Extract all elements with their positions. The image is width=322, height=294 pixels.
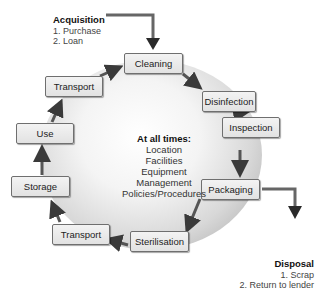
at-all-times-panel: At all times: Location Facilities Equipm… bbox=[100, 133, 228, 199]
disposal-item: 2. Return to lender bbox=[239, 280, 314, 291]
center-item: Facilities bbox=[100, 155, 228, 166]
acquisition-item: 2. Loan bbox=[53, 36, 105, 47]
step-inspection: Inspection bbox=[222, 117, 280, 138]
acquisition-item: 1. Purchase bbox=[53, 26, 105, 37]
disposal-item: 1. Scrap bbox=[239, 270, 314, 281]
acquisition-note: Acquisition 1. Purchase 2. Loan bbox=[53, 15, 105, 47]
center-item: Policies/Procedures bbox=[100, 188, 228, 199]
step-cleaning: Cleaning bbox=[124, 53, 183, 74]
acquisition-arrow bbox=[106, 15, 160, 50]
step-use: Use bbox=[16, 123, 74, 144]
center-item: Equipment bbox=[100, 166, 228, 177]
disposal-arrow bbox=[262, 189, 302, 219]
disposal-title: Disposal bbox=[239, 259, 314, 270]
step-transport-bottom: Transport bbox=[52, 224, 110, 245]
center-item: Location bbox=[100, 144, 228, 155]
disposal-note: Disposal 1. Scrap 2. Return to lender bbox=[239, 259, 314, 291]
step-transport-top: Transport bbox=[45, 76, 103, 97]
step-storage: Storage bbox=[11, 176, 70, 197]
center-item: Management bbox=[100, 177, 228, 188]
acquisition-title: Acquisition bbox=[53, 15, 105, 26]
center-title: At all times: bbox=[100, 133, 228, 144]
step-disinfection: Disinfection bbox=[202, 91, 256, 112]
step-sterilisation: Sterilisation bbox=[130, 231, 189, 252]
arrow-transport-to-cleaning bbox=[100, 68, 118, 76]
